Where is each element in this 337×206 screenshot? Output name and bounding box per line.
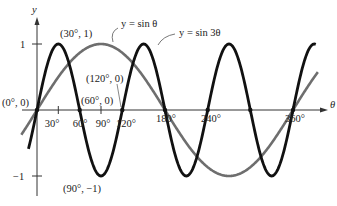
x-tick-240: 240° [201, 113, 221, 124]
x-tick-180: 180° [156, 113, 176, 124]
x-tick-30: 30° [45, 118, 60, 129]
legend-sin3: y = sin 3θ [179, 27, 221, 38]
y-axis-label: y [31, 4, 37, 15]
sin3-label-pointer [158, 34, 175, 45]
x-tick-90: 90° [96, 118, 111, 129]
p120-pointer [117, 84, 121, 107]
label-p30: (30°, 1) [60, 28, 93, 40]
label-p60: (60°, 0) [81, 95, 114, 107]
graph: y θ 1 −1 30° 60° 90° 120° 180° 240° 360°… [0, 0, 337, 206]
sin-label-pointer [112, 28, 118, 42]
y-tick-neg1: −1 [13, 171, 24, 182]
label-origin: (0°, 0) [2, 97, 29, 109]
x-axis-label: θ [330, 99, 335, 110]
label-p90: (90°, −1) [63, 183, 102, 195]
x-tick-360: 360° [285, 113, 305, 124]
y-tick-1: 1 [20, 39, 25, 50]
legend-sin: y = sin θ [121, 18, 157, 29]
x-axis-arrow-icon [320, 108, 328, 113]
y-axis-arrow-icon [35, 17, 40, 25]
x-tick-120: 120° [116, 118, 136, 129]
x-tick-60: 60° [73, 118, 88, 129]
label-p120: (120°, 0) [86, 73, 124, 85]
